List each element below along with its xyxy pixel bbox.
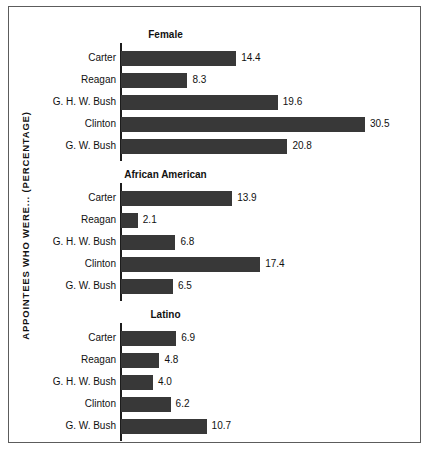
category-label: Carter — [31, 187, 116, 209]
bar-value-label: 4.0 — [158, 371, 172, 393]
category-label: Carter — [31, 47, 116, 69]
bar-value-label: 6.5 — [178, 275, 192, 297]
bar-row: G. W. Bush10.7 — [31, 415, 420, 437]
bar-row: Carter13.9 — [31, 187, 420, 209]
bar-value-label: 6.9 — [181, 327, 195, 349]
bar-row: G. H. W. Bush4.0 — [31, 371, 420, 393]
bar-row: Reagan2.1 — [31, 209, 420, 231]
category-label: Carter — [31, 327, 116, 349]
category-label: Reagan — [31, 209, 116, 231]
category-label: G. W. Bush — [31, 135, 116, 157]
bar — [121, 213, 138, 228]
chart-panel: FemaleCarter14.4Reagan8.3G. H. W. Bush19… — [31, 23, 420, 163]
chart-panel: African AmericanCarter13.9Reagan2.1G. H.… — [31, 163, 420, 303]
bar-value-label: 2.1 — [143, 209, 157, 231]
bar-value-label: 4.8 — [164, 349, 178, 371]
panel-rows: Carter6.9Reagan4.8G. H. W. Bush4.0Clinto… — [31, 327, 420, 437]
panel-title: Latino — [31, 309, 420, 320]
bar-row: G. H. W. Bush19.6 — [31, 91, 420, 113]
bar-row: Clinton30.5 — [31, 113, 420, 135]
category-label: Clinton — [31, 393, 116, 415]
bar — [121, 95, 278, 110]
category-label: G. W. Bush — [31, 275, 116, 297]
bar-value-label: 13.9 — [237, 187, 256, 209]
bar-row: G. W. Bush6.5 — [31, 275, 420, 297]
bar — [121, 139, 287, 154]
bar-value-label: 19.6 — [283, 91, 302, 113]
bar — [121, 419, 207, 434]
bar — [121, 117, 365, 132]
category-label: Reagan — [31, 69, 116, 91]
chart-figure: APPOINTEES WHO WERE... (PERCENTAGE) Fema… — [8, 6, 421, 443]
bar-row: Carter14.4 — [31, 47, 420, 69]
bar-value-label: 20.8 — [292, 135, 311, 157]
category-label: Clinton — [31, 113, 116, 135]
bar — [121, 397, 171, 412]
category-label: Clinton — [31, 253, 116, 275]
bar — [121, 331, 176, 346]
category-label: G. H. W. Bush — [31, 91, 116, 113]
bar — [121, 235, 175, 250]
category-label: Reagan — [31, 349, 116, 371]
category-label: G. H. W. Bush — [31, 231, 116, 253]
panel-title: Female — [31, 29, 420, 40]
bar-value-label: 6.8 — [180, 231, 194, 253]
panel-rows: Carter14.4Reagan8.3G. H. W. Bush19.6Clin… — [31, 47, 420, 157]
bar-value-label: 8.3 — [192, 69, 206, 91]
bar-row: Carter6.9 — [31, 327, 420, 349]
bar — [121, 279, 173, 294]
panel-title: African American — [31, 169, 420, 180]
category-label: G. W. Bush — [31, 415, 116, 437]
chart-panels: FemaleCarter14.4Reagan8.3G. H. W. Bush19… — [31, 7, 420, 442]
bar-value-label: 14.4 — [241, 47, 260, 69]
bar-row: G. W. Bush20.8 — [31, 135, 420, 157]
bar — [121, 353, 159, 368]
bar-row: G. H. W. Bush6.8 — [31, 231, 420, 253]
bar-value-label: 6.2 — [176, 393, 190, 415]
bar-value-label: 30.5 — [370, 113, 389, 135]
bar-row: Reagan4.8 — [31, 349, 420, 371]
bar — [121, 257, 260, 272]
bar-row: Reagan8.3 — [31, 69, 420, 91]
panel-rows: Carter13.9Reagan2.1G. H. W. Bush6.8Clint… — [31, 187, 420, 297]
bar — [121, 51, 236, 66]
bar-value-label: 17.4 — [265, 253, 284, 275]
bar-row: Clinton6.2 — [31, 393, 420, 415]
bar — [121, 375, 153, 390]
bar — [121, 73, 187, 88]
bar-value-label: 10.7 — [212, 415, 231, 437]
y-axis-title-label: APPOINTEES WHO WERE... (PERCENTAGE) — [20, 111, 31, 339]
chart-panel: LatinoCarter6.9Reagan4.8G. H. W. Bush4.0… — [31, 303, 420, 443]
bar-row: Clinton17.4 — [31, 253, 420, 275]
bar — [121, 191, 232, 206]
category-label: G. H. W. Bush — [31, 371, 116, 393]
